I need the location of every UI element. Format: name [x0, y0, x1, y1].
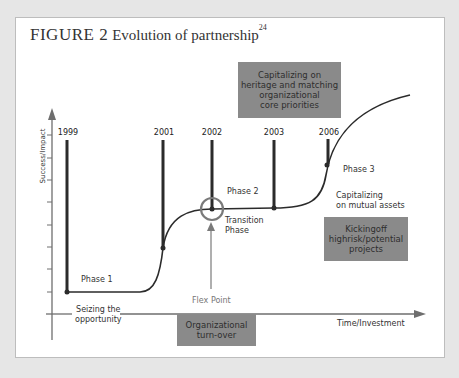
x-axis-label: Time/Investment — [337, 319, 405, 329]
box-line: organizational — [241, 90, 338, 100]
box-line: core priorities — [241, 100, 338, 110]
milestone-lines — [67, 139, 328, 292]
transition-phase-label: Transition Phase — [225, 216, 264, 235]
year-label: 2002 — [202, 128, 222, 137]
label-line: Transition — [225, 216, 264, 226]
box-line: Organizational — [186, 320, 248, 330]
heritage-box: Capitalizing on heritage and matching or… — [238, 62, 341, 118]
year-label: 1999 — [58, 128, 78, 137]
label-line: Phase — [225, 226, 264, 236]
box-line: turn-over — [186, 330, 248, 340]
year-label: 2006 — [319, 128, 339, 137]
box-line: highrisk/potential — [329, 234, 403, 244]
phase1-label: Phase 1 — [81, 275, 113, 285]
year-label: 2001 — [154, 128, 174, 137]
box-line: Capitalizing on — [241, 70, 338, 80]
capitalizing-mutual-label: Capitalizing on mutual assets — [336, 191, 405, 210]
label-line: opportunity — [75, 315, 122, 325]
turnover-box: Organizational turn-over — [177, 314, 256, 346]
box-line: heritage and matching — [241, 80, 338, 90]
box-line: Kickingoff — [329, 224, 403, 234]
y-axis-arrow-icon — [48, 108, 56, 120]
phase2-label: Phase 2 — [227, 187, 259, 197]
y-axis-label: Success/Impact — [39, 129, 47, 184]
label-line: Capitalizing — [336, 191, 405, 201]
label-line: on mutual assets — [336, 201, 405, 211]
label-line: Seizing the — [75, 305, 122, 315]
phase3-label: Phase 3 — [343, 165, 375, 175]
box-line: projects — [329, 244, 403, 254]
kickingoff-box: Kickingoff highrisk/potential projects — [324, 217, 408, 261]
x-axis-arrow-icon — [414, 310, 426, 318]
y-axis — [47, 108, 56, 340]
seizing-label: Seizing the opportunity — [75, 305, 122, 324]
year-label: 2003 — [264, 128, 284, 137]
flex-point-arrow-icon — [207, 222, 215, 231]
flex-point-label: Flex Point — [192, 296, 231, 306]
